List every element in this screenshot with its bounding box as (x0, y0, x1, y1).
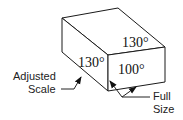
block-diagram: 130° 130° 100° Adjusted Scale Full Size (0, 0, 183, 120)
scale-label: Scale (28, 83, 56, 95)
top-face-angle-label: 130° (122, 35, 149, 50)
front-face-angle-label: 100° (118, 62, 145, 77)
adjusted-label: Adjusted (13, 70, 56, 82)
full-label: Full (153, 90, 171, 102)
adjusted-scale-leader (61, 77, 81, 89)
left-face-angle-label: 130° (78, 55, 105, 70)
size-label: Size (153, 103, 174, 115)
